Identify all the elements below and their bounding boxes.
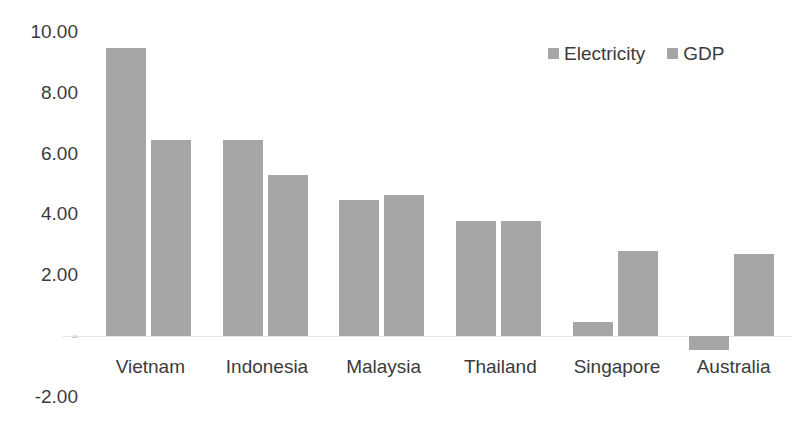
y-axis: 10.008.006.004.002.00--2.00 [0, 0, 78, 427]
x-axis-tick-label: Malaysia [325, 356, 442, 378]
bar-thailand-gdp[interactable] [501, 221, 541, 336]
bar-group [339, 20, 424, 356]
y-axis-tick-label: -2.00 [8, 387, 78, 406]
bar-chart: Electricity GDP 10.008.006.004.002.00--2… [0, 0, 798, 427]
x-axis: VietnamIndonesiaMalaysiaThailandSingapor… [92, 356, 792, 386]
bar-indonesia-gdp[interactable] [268, 175, 308, 336]
bar-group [456, 20, 541, 356]
x-axis-tick-label: Singapore [559, 356, 676, 378]
bar-group [106, 20, 191, 356]
bar-indonesia-electricity[interactable] [223, 140, 263, 336]
bar-singapore-electricity[interactable] [573, 322, 613, 336]
x-axis-tick-label: Indonesia [209, 356, 326, 378]
bar-group [223, 20, 308, 356]
y-axis-tick-label: 8.00 [8, 83, 78, 102]
bar-vietnam-electricity[interactable] [106, 48, 146, 336]
x-axis-tick-label: Australia [675, 356, 792, 378]
bar-vietnam-gdp[interactable] [151, 140, 191, 336]
x-axis-tick-label: Thailand [442, 356, 559, 378]
bar-thailand-electricity[interactable] [456, 221, 496, 336]
bar-australia-gdp[interactable] [734, 254, 774, 336]
plot-area [92, 20, 792, 356]
y-axis-tick-label: 2.00 [8, 265, 78, 284]
y-axis-tick-label: 4.00 [8, 204, 78, 223]
y-axis-tick-label: 6.00 [8, 144, 78, 163]
bar-singapore-gdp[interactable] [618, 251, 658, 336]
x-axis-tick-label: Vietnam [92, 356, 209, 378]
bar-malaysia-electricity[interactable] [339, 200, 379, 336]
bar-group [689, 20, 774, 356]
bar-australia-electricity[interactable] [689, 336, 729, 350]
y-axis-tick-label: 10.00 [8, 22, 78, 41]
bar-group [573, 20, 658, 356]
bar-malaysia-gdp[interactable] [384, 195, 424, 336]
